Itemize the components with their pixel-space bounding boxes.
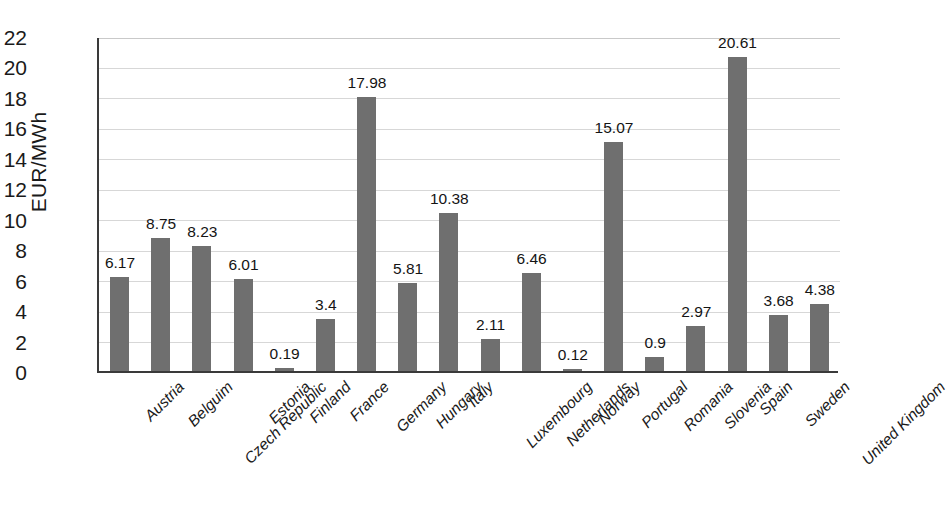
- y-tick-label: 4: [0, 301, 27, 322]
- bar[interactable]: [728, 57, 747, 371]
- bar[interactable]: [151, 238, 170, 371]
- bar[interactable]: [316, 319, 335, 371]
- x-tick-label: Belguim: [184, 378, 236, 430]
- bar-group[interactable]: 0.12: [552, 36, 593, 371]
- bar-series: 6.178.758.236.010.193.417.985.8110.382.1…: [99, 36, 840, 371]
- bar-group[interactable]: 20.61: [717, 36, 758, 371]
- x-axis-category-labels: AustriaBelguimCzech RepublicEstoniaFinla…: [97, 378, 838, 513]
- bar[interactable]: [481, 339, 500, 371]
- bar-group[interactable]: 3.68: [758, 36, 799, 371]
- bar-group[interactable]: 6.01: [223, 36, 264, 371]
- y-tick-label: 8: [0, 240, 27, 261]
- bar[interactable]: [275, 368, 294, 371]
- bar-group[interactable]: 2.11: [470, 36, 511, 371]
- bar-group[interactable]: 17.98: [346, 36, 387, 371]
- y-tick-label: 14: [0, 149, 27, 170]
- x-tick-label: Austria: [141, 378, 188, 425]
- bar-group[interactable]: 4.38: [799, 36, 840, 371]
- x-tick-label: Sweden: [802, 378, 854, 430]
- bar-group[interactable]: 8.75: [140, 36, 181, 371]
- y-tick-label: 16: [0, 118, 27, 139]
- y-tick-label: 10: [0, 210, 27, 231]
- plot-area: 6.178.758.236.010.193.417.985.8110.382.1…: [97, 38, 838, 373]
- bar-group[interactable]: 15.07: [593, 36, 634, 371]
- bar[interactable]: [398, 283, 417, 371]
- bar-group[interactable]: 6.46: [511, 36, 552, 371]
- x-tick-label: France: [347, 378, 394, 425]
- bar[interactable]: [769, 315, 788, 371]
- bar-group[interactable]: 8.23: [181, 36, 222, 371]
- bar[interactable]: [810, 304, 829, 371]
- y-axis-title: EUR/MWh: [27, 77, 51, 247]
- y-tick-label: 18: [0, 88, 27, 109]
- bar-group[interactable]: 6.17: [99, 36, 140, 371]
- y-tick-label: 2: [0, 332, 27, 353]
- bar[interactable]: [563, 369, 582, 371]
- bar-group[interactable]: 2.97: [675, 36, 716, 371]
- bar[interactable]: [439, 213, 458, 371]
- y-tick-label: 20: [0, 57, 27, 78]
- bar[interactable]: [357, 97, 376, 371]
- bar[interactable]: [645, 357, 664, 371]
- bar-group[interactable]: 0.19: [264, 36, 305, 371]
- bar[interactable]: [110, 277, 129, 371]
- y-tick-label: 22: [0, 27, 27, 48]
- bar-value-label: 4.38: [785, 281, 855, 299]
- y-tick-label: 0: [0, 362, 27, 383]
- x-tick-label: United Kingdom: [859, 378, 950, 469]
- y-tick-label: 12: [0, 179, 27, 200]
- y-tick-label: 6: [0, 271, 27, 292]
- bar[interactable]: [686, 326, 705, 371]
